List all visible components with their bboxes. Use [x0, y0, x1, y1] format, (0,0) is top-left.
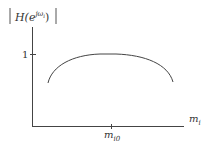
y-label-exp: jω [33, 10, 43, 18]
response-curve [48, 54, 173, 83]
y-tick-label: 1 [22, 49, 28, 60]
x-tick-label: mi0 [104, 129, 121, 143]
magnitude-response-figure: H(ejωi) 1 mi0 mi [0, 0, 209, 147]
x-axis-label: mi [189, 113, 201, 127]
y-axis-label: H(ejωi) [10, 8, 56, 24]
y-label-func: H(e [14, 11, 36, 24]
y-label-close: ) [45, 11, 49, 24]
svg-text:H(ejωi): H(ejωi) [14, 10, 49, 24]
